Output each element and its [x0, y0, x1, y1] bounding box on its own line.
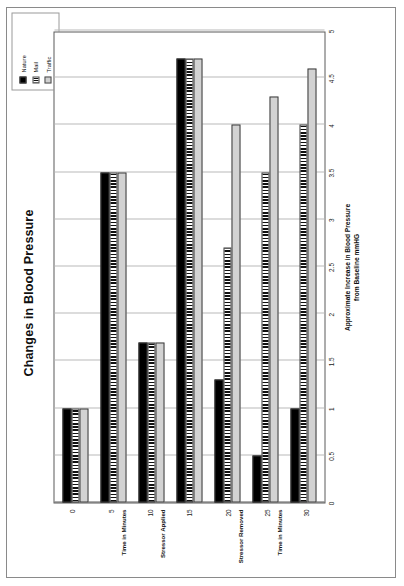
value-axis-tick-label: 3: [327, 218, 334, 222]
value-axis-tick-label: 5: [327, 29, 334, 33]
category-axis-annotation: Stressor Applied: [159, 509, 166, 558]
bar-group-0: [60, 32, 90, 502]
bar-group-30: [288, 32, 318, 502]
value-axis-tick-label: 2: [327, 312, 334, 316]
bar-nature-30: [290, 408, 299, 502]
category-axis-annotation: Time in Minutes: [275, 509, 282, 555]
bar-traffic-20: [231, 124, 240, 502]
value-axis-ticks: 00.511.522.533.544.55: [327, 31, 341, 503]
bar-mail-20: [223, 247, 232, 502]
bar-nature-10: [138, 342, 147, 502]
value-axis-title-line1: Approximate Increase in Blood Pressure: [343, 31, 352, 503]
bar-group-10: [136, 32, 166, 502]
category-axis-tick-label: 30: [302, 509, 309, 516]
legend-item-mail: Mail: [30, 19, 41, 83]
value-axis-tick-label: 4: [327, 124, 334, 128]
value-axis-tick-label: 0: [327, 501, 334, 505]
value-axis-tick-label: 4.5: [327, 74, 334, 83]
bar-mail-15: [185, 58, 194, 502]
bar-group-20: [212, 32, 242, 502]
legend-item-nature: Nature: [17, 19, 28, 83]
bar-traffic-10: [155, 342, 164, 502]
bar-traffic-0: [79, 408, 88, 502]
bar-group-5: [98, 32, 128, 502]
bar-traffic-30: [307, 68, 316, 502]
bar-nature-20: [214, 379, 223, 502]
chart-title: Changes in Blood Pressure: [21, 8, 35, 577]
category-axis-tick-label: 0: [69, 509, 76, 513]
chart-legend: Nature Mail Traffic: [11, 12, 59, 90]
category-axis-tick-label: 20: [224, 509, 231, 516]
page-root: Changes in Blood Pressure Nature Mail Tr…: [0, 0, 404, 586]
rotated-chart-wrapper: Changes in Blood Pressure Nature Mail Tr…: [7, 8, 395, 577]
bar-group-15: [174, 32, 204, 502]
legend-swatch-traffic-icon: [44, 76, 51, 83]
legend-swatch-mail-icon: [32, 76, 39, 83]
gridline: [54, 29, 324, 30]
category-axis-annotation: Time in Minutes: [120, 509, 127, 555]
value-axis-tick-label: 0.5: [327, 451, 334, 460]
category-axis-annotation: Stressor Removed: [236, 509, 243, 563]
value-axis-tick-label: 1.5: [327, 357, 334, 366]
bar-traffic-15: [193, 58, 202, 502]
legend-swatch-nature-icon: [19, 76, 26, 83]
bar-groups: [54, 32, 324, 502]
category-axis-tick-label: 10: [147, 509, 154, 516]
value-axis-tick-label: 1: [327, 407, 334, 411]
bar-nature-25: [252, 455, 261, 502]
bar-group-25: [250, 32, 280, 502]
category-axis-ticks: 051015202530Time in MinutesStressor Appl…: [53, 505, 325, 549]
category-axis-tick-label: 25: [263, 509, 270, 516]
bar-mail-10: [147, 342, 156, 502]
category-axis-tick-label: 5: [108, 509, 115, 513]
bar-nature-15: [176, 58, 185, 502]
bar-mail-25: [261, 172, 270, 502]
bar-nature-0: [62, 408, 71, 502]
value-axis-title: Approximate Increase in Blood Pressure f…: [343, 31, 360, 503]
legend-label-nature: Nature: [20, 55, 26, 72]
value-axis-tick-label: 3.5: [327, 168, 334, 177]
legend-label-traffic: Traffic: [45, 56, 51, 72]
value-axis-tick-label: 2.5: [327, 263, 334, 272]
plot-area: [53, 31, 325, 503]
bar-mail-0: [71, 408, 80, 502]
bar-traffic-5: [117, 172, 126, 502]
category-axis-tick-label: 15: [186, 509, 193, 516]
bar-mail-5: [109, 172, 118, 502]
legend-label-mail: Mail: [32, 61, 38, 72]
chart-canvas: Changes in Blood Pressure Nature Mail Tr…: [7, 8, 395, 577]
bar-traffic-25: [269, 96, 278, 502]
bar-nature-5: [100, 172, 109, 502]
legend-item-traffic: Traffic: [42, 19, 53, 83]
bar-mail-30: [299, 124, 308, 502]
value-axis-title-line2: from Baseline mmHG: [352, 31, 361, 503]
